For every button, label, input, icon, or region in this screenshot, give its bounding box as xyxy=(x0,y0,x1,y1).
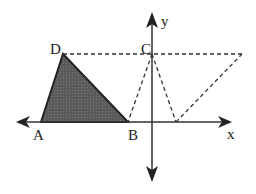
shaded-triangle-adb xyxy=(41,54,128,122)
label-point-b: B xyxy=(128,127,138,143)
dashed-line-c-to-xaxis xyxy=(152,54,176,122)
y-axis xyxy=(146,12,158,182)
label-y-axis: y xyxy=(161,13,169,29)
coordinate-plane: y x A B C D xyxy=(0,0,256,194)
label-point-c: C xyxy=(141,41,151,57)
label-point-a: A xyxy=(33,127,44,143)
dashed-line-c-to-b xyxy=(128,54,152,122)
label-point-d: D xyxy=(50,41,61,57)
dashed-line-xaxis-to-right xyxy=(176,54,242,122)
diagram-canvas: y x A B C D xyxy=(0,0,256,194)
label-x-axis: x xyxy=(227,126,235,142)
